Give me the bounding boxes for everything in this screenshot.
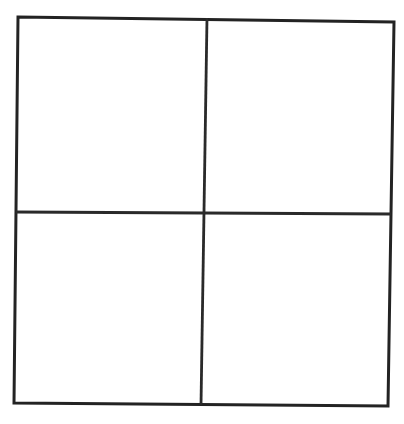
cell-top-left — [18, 17, 207, 213]
cell-bottom-right — [204, 213, 391, 405]
diagram-canvas — [0, 0, 404, 424]
cell-top-right — [207, 18, 393, 213]
cell-bottom-left — [16, 213, 204, 404]
